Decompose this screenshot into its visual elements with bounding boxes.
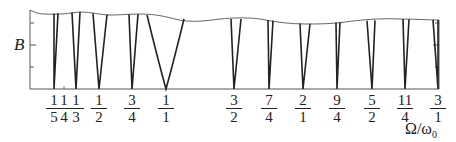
numerator: 5 <box>364 93 380 109</box>
denominator: 3 <box>66 109 86 124</box>
tick-label-fraction: 11 <box>156 93 176 124</box>
boundary-curve <box>30 10 439 24</box>
tongue-notch <box>268 20 273 89</box>
tongue-notch <box>336 22 340 89</box>
numerator: 3 <box>226 93 242 109</box>
tongue-notch <box>147 15 184 89</box>
y-axis-label: B <box>14 35 24 55</box>
tick-label-fraction: 52 <box>362 93 382 124</box>
numerator: 1 <box>158 93 174 109</box>
tongue-notch <box>129 14 138 89</box>
denominator: 2 <box>362 109 382 124</box>
tongue-notch <box>403 19 409 89</box>
tick-label-fraction: 13 <box>66 93 86 124</box>
tick-label-fraction: 31 <box>428 93 448 124</box>
denominator: 4 <box>395 109 415 124</box>
tongues <box>54 12 438 89</box>
tongue-notch <box>72 12 80 89</box>
denominator: 1 <box>156 109 176 124</box>
tick-label-fraction: 114 <box>395 93 415 124</box>
denominator: 4 <box>122 109 142 124</box>
denominator: 2 <box>89 109 109 124</box>
numerator: 9 <box>329 93 345 109</box>
tick-label-fraction: 21 <box>293 93 313 124</box>
tongue-notch <box>433 20 438 89</box>
tick-label-fraction: 32 <box>224 93 244 124</box>
denominator: 4 <box>259 109 279 124</box>
tick-label-fraction: 34 <box>122 93 142 124</box>
numerator: 1 <box>68 93 84 109</box>
numerator: 7 <box>261 93 277 109</box>
tick-label-fraction: 12 <box>89 93 109 124</box>
denominator: 1 <box>293 109 313 124</box>
numerator: 1 <box>91 93 107 109</box>
tongue-notch <box>231 19 241 89</box>
numerator: 11 <box>397 93 413 109</box>
tick-label-fraction: 74 <box>259 93 279 124</box>
tick-label-fraction: 94 <box>327 93 347 124</box>
denominator: 2 <box>224 109 244 124</box>
tongue-notch <box>367 20 375 89</box>
denominator: 4 <box>327 109 347 124</box>
numerator: 2 <box>295 93 311 109</box>
denominator: 1 <box>428 109 448 124</box>
numerator: 3 <box>124 93 140 109</box>
tongue-notch <box>300 23 310 89</box>
numerator: 3 <box>430 93 446 109</box>
tongue-notch <box>54 13 58 89</box>
tongue-notch <box>93 13 107 89</box>
